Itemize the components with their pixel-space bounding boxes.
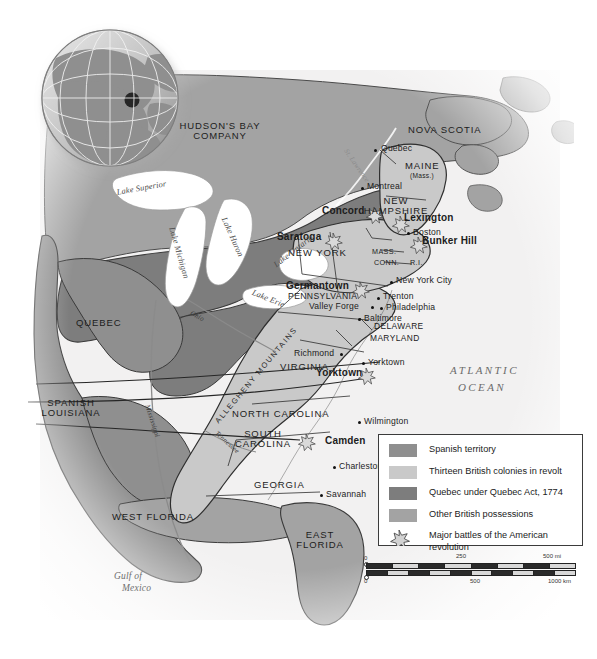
city-label-new-york-city: New York City (396, 276, 452, 285)
city-label-wilmington: Wilmington (364, 417, 409, 426)
scale-tick-mi-250: 250 (456, 553, 466, 559)
city-dot-wilmington (358, 421, 361, 424)
city-dot-valley-forge (371, 306, 374, 309)
legend-label-spanish-territory: Spanish territory (429, 443, 496, 456)
city-label-charleston: Charleston (339, 462, 383, 471)
region-label-delaware: DELAWARE (374, 322, 424, 331)
region-label-spanish-louisiana: SPANISH LOUISIANA (28, 398, 114, 419)
scale-tick-mi-500: 500 mi (543, 553, 561, 559)
region-label-mass: MASS. (372, 248, 396, 256)
legend-swatch-spanish-territory (389, 444, 417, 457)
legend-swatch-quebec-act (389, 487, 417, 500)
city-dot-trenton (377, 297, 380, 300)
region-label-ri: R.I. (410, 259, 423, 267)
region-label-maine: MAINE (405, 161, 440, 171)
region-label-west-florida: WEST FLORIDA (112, 512, 194, 522)
region-label-quebec: QUEBEC (76, 318, 122, 328)
region-label-north-carolina: NORTH CAROLINA (232, 409, 329, 419)
city-label-philadelphia: Philadelphia (386, 303, 435, 312)
battle-label-concord: Concord (322, 206, 365, 217)
city-label-montreal: Montreal (367, 182, 402, 191)
region-label-georgia: GEORGIA (254, 480, 305, 490)
legend-item-thirteen-colonies: Thirteen British colonies in revolt (389, 465, 574, 479)
city-dot-richmond (340, 353, 343, 356)
legend-swatch-thirteen-colonies (389, 466, 417, 479)
city-dot-charleston (333, 466, 336, 469)
legend-item-major-battles: Major battles of the American revolution (389, 529, 574, 553)
legend-label-thirteen-colonies: Thirteen British colonies in revolt (429, 465, 562, 478)
region-label-hudsons-bay: HUDSON'S BAY COMPANY (170, 121, 270, 142)
city-label-savannah: Savannah (326, 490, 366, 499)
ocean-label-gulf-of-mexico: Gulf of Mexico (114, 570, 151, 595)
scale-bar-miles (366, 563, 576, 569)
map-legend: Spanish territory Thirteen British colon… (378, 434, 583, 546)
legend-label-other-british: Other British possessions (429, 508, 533, 521)
city-dot-montreal (361, 187, 364, 190)
legend-label-major-battles: Major battles of the American revolution (429, 529, 557, 553)
city-label-trenton: Trenton (383, 292, 414, 301)
city-dot-new-york-city (390, 281, 393, 284)
city-dot-baltimore (358, 318, 361, 321)
region-label-east-florida: EAST FLORIDA (292, 530, 348, 551)
city-label-richmond: Richmond (294, 349, 334, 358)
scale-tick-km-1000: 1000 km (548, 578, 571, 584)
scale-tick-km-500: 500 (470, 578, 480, 584)
scale-tick-km-0: 0 (364, 578, 367, 584)
ocean-label-atlantic: ATLANTIC OCEAN (450, 362, 519, 395)
region-label-maine-note: (Mass.) (410, 172, 434, 179)
scale-bar-kilometers (366, 570, 576, 576)
city-label-yorktown: Yorktown (368, 358, 405, 367)
battle-label-camden: Camden (325, 436, 366, 447)
city-label-baltimore: Baltimore (364, 314, 402, 323)
city-label-valley-forge: Valley Forge (309, 302, 359, 311)
map-figure: HUDSON'S BAY COMPANY NOVA SCOTIA MAINE (… (0, 0, 597, 659)
region-label-pennsylvania: PENNSYLVANIA (288, 292, 357, 301)
legend-item-spanish-territory: Spanish territory (389, 443, 574, 457)
region-label-maryland: MARYLAND (370, 334, 420, 343)
scale-tick-mi-0: 0 (364, 555, 367, 561)
city-label-quebec: Quebec (381, 144, 412, 153)
battle-label-yorktown: Yorktown (316, 368, 362, 379)
region-label-nova-scotia: NOVA SCOTIA (408, 125, 482, 135)
legend-swatch-other-british (389, 509, 417, 522)
legend-item-quebec-act: Quebec under Quebec Act, 1774 (389, 486, 574, 500)
scale-bar: 0 250 500 mi 0 500 1000 km (358, 553, 580, 587)
legend-label-quebec-act: Quebec under Quebec Act, 1774 (429, 486, 563, 499)
legend-item-other-british: Other British possessions (389, 508, 574, 522)
city-dot-quebec (374, 149, 377, 152)
city-dot-philadelphia (380, 307, 383, 310)
city-dot-boston (407, 232, 410, 235)
battle-label-lexington: Lexington (404, 213, 454, 224)
city-dot-yorktown (362, 362, 365, 365)
battle-label-bunker-hill: Bunker Hill (422, 236, 477, 247)
region-label-conn: CONN. (374, 259, 399, 267)
city-dot-savannah (320, 494, 323, 497)
star-icon (389, 528, 417, 550)
battle-label-germantown: Germantown (286, 281, 349, 292)
